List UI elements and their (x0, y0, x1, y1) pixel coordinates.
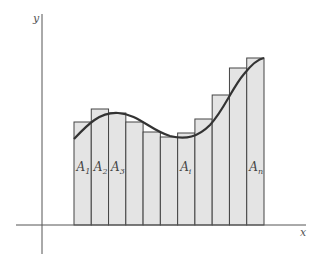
rectangle-5 (143, 132, 160, 225)
rectangles (74, 58, 264, 225)
rectangle-6 (160, 137, 177, 225)
y-axis-label: y (32, 12, 40, 25)
rectangle-11 (247, 58, 264, 225)
rectangle-9 (212, 95, 229, 225)
rectangle-7 (178, 133, 195, 225)
riemann-sum-diagram: y x A1A2A3AiAn (0, 0, 324, 261)
rectangle-4 (126, 122, 143, 225)
x-axis-label: x (300, 226, 307, 239)
